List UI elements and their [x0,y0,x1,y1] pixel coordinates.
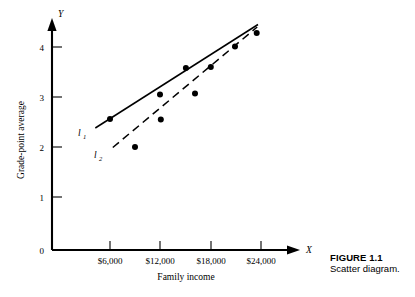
y-tick-label-1: 1 [40,193,45,203]
x-axis-ticks [110,241,261,250]
data-point [232,44,238,50]
data-point [183,65,189,71]
y-tick-label-4: 4 [40,43,45,53]
x-axis-name: X [305,245,313,255]
scatter-points [107,30,260,150]
y-axis-name: Y [58,9,65,19]
x-axis-title: Family income [157,272,214,282]
y-tick-label-3: 3 [40,93,45,103]
x-tick-label-24000: $24,000 [246,256,276,266]
figure-caption-text: Scatter diagram. [330,263,415,274]
y-axis-title: Grade-point average [16,101,26,179]
svg-text:l: l [78,128,81,138]
line-label-l1: l 1 [78,128,86,140]
x-tick-label-6000: $6,000 [98,256,123,266]
x-axis [52,245,300,254]
line-label-l2: l 2 [94,150,103,162]
svg-text:1: 1 [83,133,86,140]
fit-line-l1 [95,25,258,129]
y-tick-label-2: 2 [40,143,45,153]
x-tick-label-12000: $12,000 [145,256,175,266]
x-tick-label-18000: $18,000 [196,256,226,266]
figure-container: 4 3 2 1 0 $6,000 $12,000 $18,000 $24,000… [0,0,415,297]
svg-text:2: 2 [99,155,103,162]
figure-caption-title: FIGURE 1.1 [330,252,415,263]
data-point [157,92,163,98]
data-point [192,91,198,97]
svg-text:l: l [94,150,97,160]
figure-caption: FIGURE 1.1 Scatter diagram. [330,252,415,274]
data-point [254,30,260,36]
data-point [158,117,164,123]
data-point [107,116,113,122]
data-point [132,144,138,150]
y-axis-ticks [52,47,62,197]
data-point [208,64,214,70]
y-tick-label-0: 0 [40,246,45,256]
y-axis [47,18,56,250]
